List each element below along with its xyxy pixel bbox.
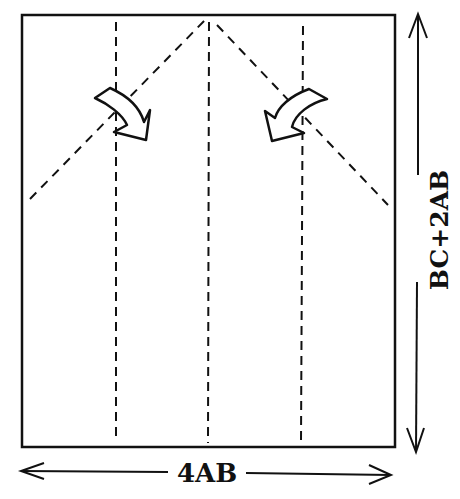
folding-diagram: 4AB BC+2AB bbox=[0, 0, 460, 499]
height-arrow-line-bottom bbox=[416, 282, 417, 452]
height-label: BC+2AB bbox=[425, 170, 454, 290]
width-arrow-line-right bbox=[246, 473, 391, 475]
width-arrow-line-left bbox=[21, 471, 168, 472]
width-label: 4AB bbox=[177, 458, 237, 488]
height-dimension bbox=[407, 14, 427, 452]
